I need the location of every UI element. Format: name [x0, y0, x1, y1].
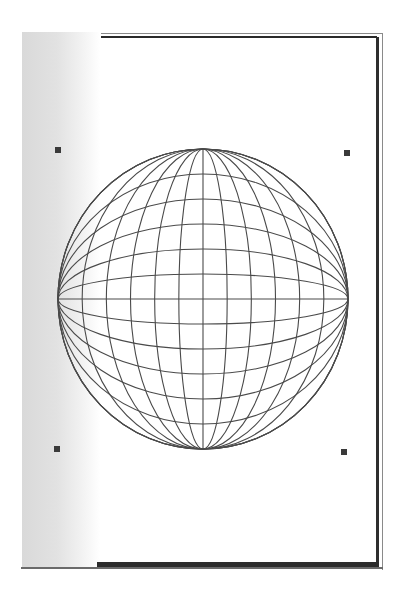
- drawing-canvas[interactable]: [0, 0, 405, 608]
- sphere-wireframe-object[interactable]: [0, 0, 405, 608]
- selection-handle-bottom-right[interactable]: [341, 449, 347, 455]
- selection-handle-bottom-left[interactable]: [54, 446, 60, 452]
- sphere-grid: [58, 149, 348, 449]
- selection-handle-top-right[interactable]: [344, 150, 350, 156]
- selection-handle-top-left[interactable]: [55, 147, 61, 153]
